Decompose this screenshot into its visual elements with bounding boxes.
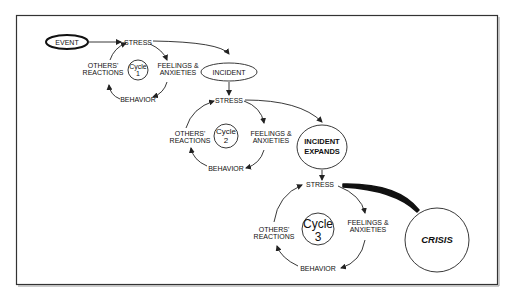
cycle2-others-line2: REACTIONS bbox=[170, 137, 211, 144]
cycle2-stress: STRESS bbox=[215, 97, 243, 104]
event-node: EVENT bbox=[46, 35, 88, 49]
cycle1-others-line1: OTHERS' bbox=[88, 62, 119, 69]
cycle3-feelings-line1: FEELINGS & bbox=[347, 219, 389, 226]
cycle2-number: 2 bbox=[224, 136, 229, 145]
cycle2-feelings-line2: ANXIETIES bbox=[253, 137, 290, 144]
cycle2-feelings-line1: FEELINGS & bbox=[250, 130, 292, 137]
incident-label: INCIDENT bbox=[212, 69, 246, 76]
cycle2-behavior: BEHAVIOR bbox=[208, 165, 244, 172]
cycle1-number: 1 bbox=[136, 70, 140, 77]
incident-node: INCIDENT bbox=[201, 63, 257, 81]
crisis-node: CRISIS bbox=[405, 208, 469, 272]
cycle1-feelings-line1: FEELINGS & bbox=[157, 62, 199, 69]
cycle1-stress: STRESS bbox=[124, 39, 152, 46]
incident-expands-label-line1: INCIDENT bbox=[304, 137, 340, 146]
cycle3-others-line2: REACTIONS bbox=[254, 233, 295, 240]
cycle1-behavior: BEHAVIOR bbox=[120, 96, 156, 103]
incident-expands-node: INCIDENT EXPANDS bbox=[297, 125, 347, 169]
cycle1-feelings-line2: ANXIETIES bbox=[160, 69, 197, 76]
crisis-label: CRISIS bbox=[421, 234, 453, 245]
escalation-diagram: EVENT STRESS FEELINGS & ANXIETIES BEHAVI… bbox=[0, 0, 512, 295]
cycle2-title: Cycle bbox=[216, 127, 237, 136]
cycle3-others-line1: OTHERS' bbox=[259, 226, 290, 233]
event-label: EVENT bbox=[55, 39, 79, 46]
cycle3-behavior: BEHAVIOR bbox=[300, 265, 336, 272]
cycle2-others-line1: OTHERS' bbox=[175, 130, 206, 137]
cycle3-feelings-line2: ANXIETIES bbox=[350, 226, 387, 233]
cycle3-title: Cycle bbox=[303, 217, 333, 231]
incident-expands-label-line2: EXPANDS bbox=[304, 147, 340, 156]
cycle3-number: 3 bbox=[315, 230, 322, 244]
cycle3-stress: STRESS bbox=[306, 181, 334, 188]
cycle1-others-line2: REACTIONS bbox=[83, 69, 124, 76]
